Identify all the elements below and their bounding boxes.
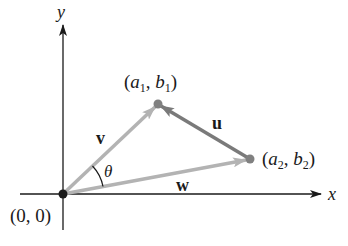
vector-v-label: v [96, 128, 105, 148]
point-p2 [246, 155, 255, 164]
angle-arc [93, 166, 104, 187]
angle-theta-label: θ [104, 162, 112, 181]
vector-diagram: x y θ v w u (a1, b1) (a2, b2) (0, 0) [0, 0, 348, 246]
point-p1-label: (a1, b1) [124, 71, 177, 95]
vector-w [63, 160, 246, 194]
vector-u-label: u [212, 113, 222, 133]
point-p2-label: (a2, b2) [262, 148, 315, 172]
point-p1 [154, 100, 163, 109]
y-axis-label: y [55, 2, 65, 22]
vector-w-label: w [176, 175, 189, 195]
x-axis-label: x [327, 184, 336, 204]
vector-u [161, 106, 250, 159]
origin-label: (0, 0) [10, 205, 51, 227]
origin-point [59, 190, 68, 199]
